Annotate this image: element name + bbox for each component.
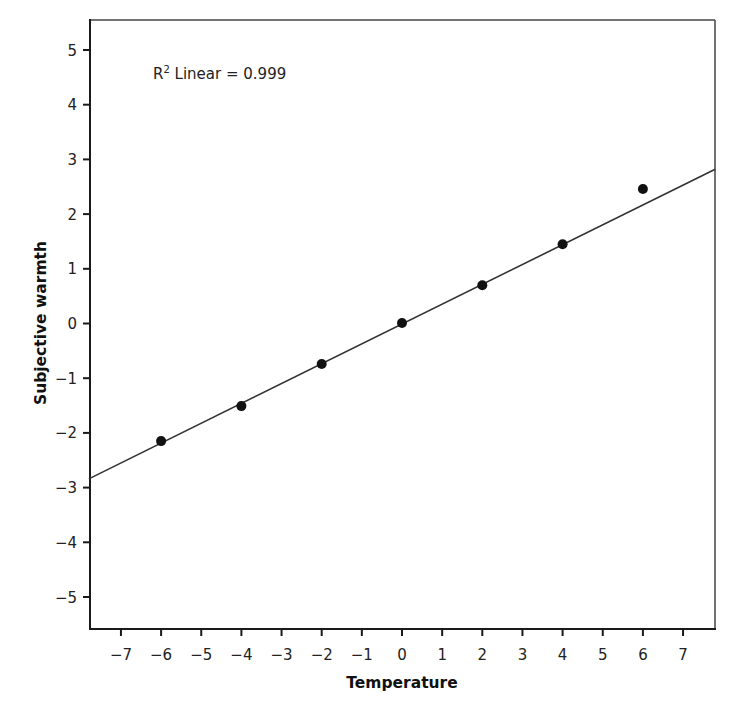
r2-annotation: R2 Linear = 0.999 [153, 64, 286, 83]
y-tick-label: −2 [55, 424, 77, 442]
data-point [397, 318, 407, 328]
y-tick-label: −3 [55, 479, 77, 497]
x-tick-label: 0 [397, 646, 407, 664]
y-tick-label: 5 [67, 42, 77, 60]
y-tick-label: 3 [67, 151, 77, 169]
data-point [156, 436, 166, 446]
y-tick-label: 1 [67, 260, 77, 278]
x-axis-title: Temperature [346, 674, 458, 692]
r2-value: Linear = 0.999 [170, 65, 286, 83]
x-tick-label: −6 [150, 646, 172, 664]
x-tick-label: 3 [518, 646, 528, 664]
data-points [156, 184, 648, 446]
data-point [317, 359, 327, 369]
x-tick-label: 2 [478, 646, 488, 664]
x-tick-label: 1 [437, 646, 447, 664]
x-tick-label: −3 [270, 646, 292, 664]
y-tick-label: −5 [55, 589, 77, 607]
x-tick-label: −4 [230, 646, 252, 664]
x-tick-label: 5 [598, 646, 608, 664]
y-axis-ticks: 543210−1−2−3−4−5 [55, 42, 90, 607]
x-tick-label: −1 [351, 646, 373, 664]
y-tick-label: 0 [67, 315, 77, 333]
y-tick-label: 4 [67, 96, 77, 114]
figure-caption-cutoff [0, 703, 747, 713]
y-tick-label: 2 [67, 206, 77, 224]
r2-letter: R [153, 65, 163, 83]
data-point [477, 280, 487, 290]
scatter-chart: 543210−1−2−3−4−5 −7−6−5−4−3−2−101234567 … [0, 0, 747, 713]
x-tick-label: −5 [190, 646, 212, 664]
y-tick-label: −4 [55, 534, 77, 552]
y-tick-label: −1 [55, 370, 77, 388]
x-tick-label: 4 [558, 646, 568, 664]
data-point [236, 401, 246, 411]
x-tick-label: −2 [311, 646, 333, 664]
y-axis-title: Subjective warmth [32, 241, 50, 405]
data-point [558, 239, 568, 249]
x-tick-label: −7 [110, 646, 132, 664]
x-tick-label: 7 [678, 646, 688, 664]
x-axis-ticks: −7−6−5−4−3−2−101234567 [110, 629, 688, 664]
data-point [638, 184, 648, 194]
x-tick-label: 6 [638, 646, 648, 664]
